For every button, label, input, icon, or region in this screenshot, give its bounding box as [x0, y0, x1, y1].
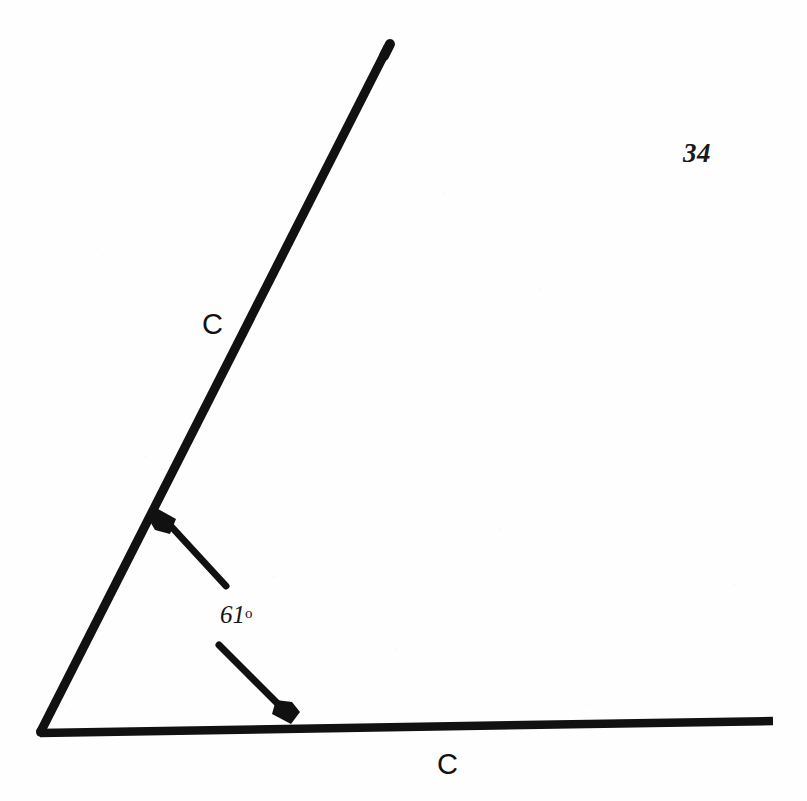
arrow-to-horizontal-ray	[219, 645, 300, 724]
horizontal-ray-stroke	[40, 721, 773, 733]
diagonal-ray-stroke	[40, 47, 388, 733]
angle-measure-value: 61	[220, 601, 245, 628]
diagonal-ray	[40, 44, 390, 733]
arrow-to-horizontal-ray-head	[272, 700, 300, 724]
angle-measure-label: 61o	[220, 602, 253, 627]
vertex-point	[36, 727, 46, 737]
degree-symbol: o	[245, 605, 253, 621]
angle-diagram-figure	[0, 0, 807, 801]
horizontal-ray-label: C	[437, 750, 458, 779]
diagonal-ray-label: C	[202, 310, 223, 339]
horizontal-ray	[40, 721, 773, 733]
scanned-page: 34 61o C C	[0, 0, 807, 801]
diagonal-ray-tip-ink	[384, 44, 390, 56]
page-number: 34	[683, 140, 711, 167]
arrow-to-diagonal-ray	[148, 509, 226, 586]
arrow-to-diagonal-ray-shaft	[168, 523, 226, 586]
arrow-to-horizontal-ray-shaft	[219, 645, 281, 707]
